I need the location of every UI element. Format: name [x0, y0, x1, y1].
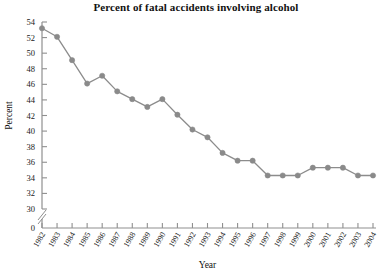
x-tick-label: 2004: [362, 231, 378, 249]
data-point: [54, 34, 59, 39]
y-tick-label: 36: [27, 157, 36, 167]
y-tick-label: 38: [27, 142, 36, 152]
x-tick-label: 2002: [332, 231, 348, 249]
y-tick-label: 30: [27, 204, 36, 214]
chart-container: Percent of fatal accidents involving alc…: [0, 0, 392, 272]
y-tick-label-zero: 0: [31, 223, 35, 233]
data-point: [235, 158, 240, 163]
x-tick-label: 1998: [272, 231, 288, 249]
y-tick-label: 40: [27, 126, 36, 136]
series-line: [42, 28, 373, 175]
data-point: [160, 97, 165, 102]
x-tick-label: 1989: [137, 231, 153, 249]
x-axis: 1982198319841985198619871988198919901991…: [31, 223, 378, 249]
data-point: [355, 173, 360, 178]
x-tick-label: 1987: [107, 231, 123, 249]
y-tick-label: 46: [27, 79, 36, 89]
y-tick-label: 44: [27, 95, 36, 105]
x-tick-label: 1994: [212, 231, 228, 249]
data-point: [295, 173, 300, 178]
data-point: [130, 97, 135, 102]
data-point: [100, 73, 105, 78]
data-point: [220, 150, 225, 155]
x-tick-label: 1999: [287, 231, 303, 249]
data-point: [280, 173, 285, 178]
data-point: [340, 165, 345, 170]
x-tick-label: 1995: [227, 231, 243, 249]
x-tick-label: 2001: [317, 231, 333, 249]
data-point: [250, 158, 255, 163]
data-point: [310, 165, 315, 170]
y-tick-label: 50: [27, 48, 36, 58]
data-point: [145, 104, 150, 109]
x-tick-label: 2000: [302, 231, 318, 249]
y-tick-label: 54: [27, 17, 36, 27]
y-axis-title: Percent: [4, 101, 14, 130]
y-tick-label: 52: [27, 33, 36, 43]
x-axis-title: Year: [199, 260, 217, 270]
data-point: [39, 26, 44, 31]
y-tick-label: 34: [27, 173, 36, 183]
x-tick-label: 1985: [77, 231, 93, 249]
x-tick-label: 1993: [197, 231, 213, 249]
x-tick-label: 1986: [92, 231, 108, 249]
data-point: [115, 89, 120, 94]
data-point: [265, 173, 270, 178]
x-tick-label: 1990: [152, 231, 168, 249]
y-tick-label: 42: [27, 111, 36, 121]
data-point: [190, 127, 195, 132]
data-series-alcohol: [39, 26, 375, 178]
data-point: [325, 165, 330, 170]
x-tick-label: 1991: [167, 231, 183, 249]
x-tick-label: 1997: [257, 231, 273, 249]
data-point: [69, 58, 74, 63]
data-point: [205, 135, 210, 140]
x-tick-label: 1992: [182, 231, 198, 249]
x-tick-label: 1983: [46, 231, 62, 249]
x-tick-label: 1982: [31, 231, 47, 249]
x-tick-label: 1984: [62, 231, 78, 249]
x-tick-label: 2003: [347, 231, 363, 249]
data-point: [175, 112, 180, 117]
data-point: [85, 81, 90, 86]
x-tick-label: 1988: [122, 231, 138, 249]
data-point: [370, 173, 375, 178]
y-tick-label: 48: [27, 64, 36, 74]
x-tick-label: 1996: [242, 231, 258, 249]
line-chart-plot: 545250484644424038363432300 198219831984…: [0, 0, 392, 272]
y-axis: 545250484644424038363432300: [27, 17, 48, 233]
y-tick-label: 32: [27, 188, 36, 198]
